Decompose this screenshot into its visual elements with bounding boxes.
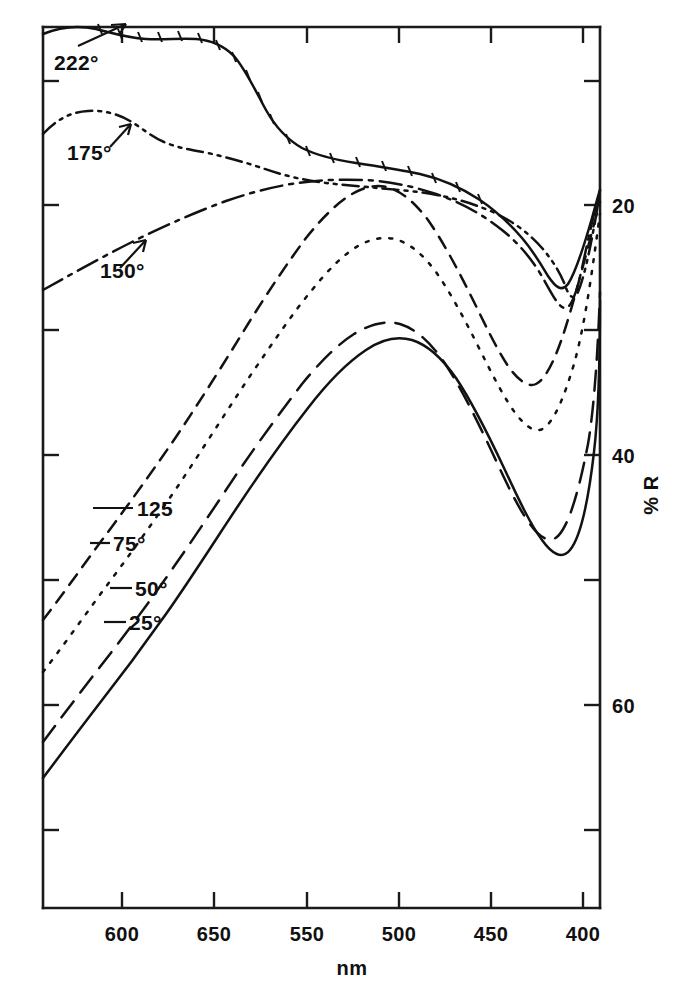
x-tick-labels: 600 650 550 500 450 400 — [105, 923, 601, 945]
annotation-222: 222° — [54, 24, 126, 74]
curve-222-markers — [98, 24, 482, 204]
curve-222 — [43, 27, 600, 288]
y-tick-label-1: 40 — [612, 445, 635, 467]
x-tick-label-3: 500 — [382, 923, 417, 945]
annotation-25: 25° — [104, 611, 162, 634]
curve-150 — [43, 180, 600, 309]
curve-50 — [43, 292, 600, 742]
series-label-222: 222° — [54, 51, 99, 74]
annotation-175: 175° — [67, 124, 131, 164]
chart-svg: 600 650 550 500 450 400 nm — [0, 0, 687, 992]
y-axis-title: % R — [640, 475, 662, 514]
y-tick-label-2: 60 — [612, 695, 635, 717]
x-tick-label-5: 400 — [566, 923, 601, 945]
series-curve-222 — [43, 24, 600, 288]
series-label-50: 50° — [135, 577, 168, 600]
series-label-25: 25° — [129, 611, 162, 634]
x-axis-title: nm — [337, 957, 368, 979]
curve-75 — [43, 214, 600, 672]
series-label-75: 75° — [113, 532, 146, 555]
cropped-caption-strip — [0, 978, 687, 992]
series-label-150: 150° — [100, 259, 145, 282]
x-tick-label-4: 450 — [474, 923, 509, 945]
series-label-125: 125 — [137, 497, 173, 520]
y-tick-label-0: 20 — [612, 195, 635, 217]
x-tick-label-2: 550 — [290, 923, 325, 945]
y-tick-labels: 20 40 60 — [612, 195, 635, 717]
annotation-125: 125 — [93, 497, 173, 520]
x-tick-label-0: 600 — [105, 923, 140, 945]
y-ticks — [43, 81, 600, 830]
annotation-75: 75° — [90, 532, 146, 555]
annotation-50: 50° — [110, 577, 168, 600]
plot-frame — [43, 27, 600, 908]
series-label-175: 175° — [67, 141, 112, 164]
x-tick-label-1: 650 — [197, 923, 232, 945]
reflectance-spectra-figure: 600 650 550 500 450 400 nm — [0, 0, 687, 992]
